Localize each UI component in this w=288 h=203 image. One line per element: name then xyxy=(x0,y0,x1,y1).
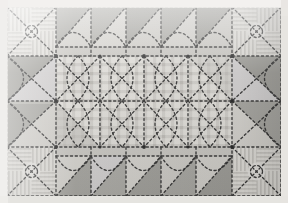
quilt-photograph: Patchwork quilt photograph xyxy=(0,0,288,203)
quilt-canvas xyxy=(0,0,288,203)
edge-right xyxy=(281,0,288,203)
edge-bottom xyxy=(0,196,288,203)
edge-top xyxy=(0,0,288,8)
edge-left xyxy=(0,0,8,203)
quilt-body xyxy=(7,7,281,196)
light-gradient-left xyxy=(7,7,281,196)
